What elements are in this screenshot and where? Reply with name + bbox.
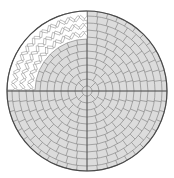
circular-paving-diagram <box>0 0 174 178</box>
